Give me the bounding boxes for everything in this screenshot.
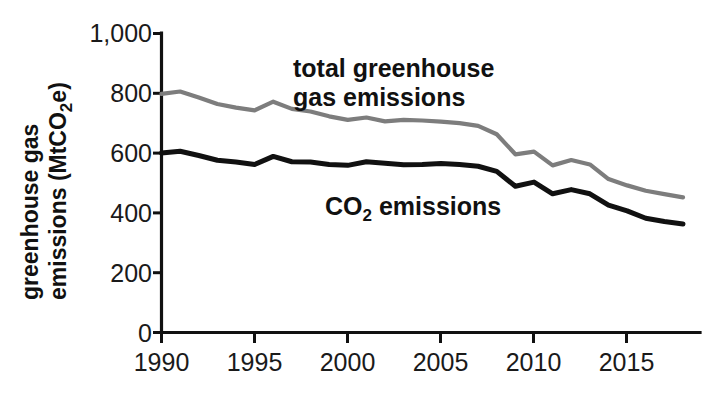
chart-canvas: greenhouse gas emissions (MtCO2e) 1,000 …	[0, 0, 724, 396]
annotation-total-greenhouse-gas: total greenhouse gas emissions	[293, 54, 495, 111]
y-axis-title-line1: greenhouse gas	[17, 124, 43, 300]
annotation-co2: CO2 emissions	[325, 192, 501, 225]
svg-text:emissions (MtCO2e): emissions (MtCO2e)	[45, 82, 76, 300]
y-axis-title-line2-post: e)	[45, 82, 71, 102]
greenhouse-gas-emissions-chart: greenhouse gas emissions (MtCO2e) 1,000 …	[0, 0, 724, 396]
x-tick-label-2015: 2015	[599, 348, 655, 376]
x-tick-label-2005: 2005	[413, 348, 469, 376]
annotation-total-line2: gas emissions	[293, 83, 465, 111]
y-tick-label-1000: 1,000	[89, 19, 152, 47]
x-tick-label-1995: 1995	[227, 348, 283, 376]
y-axis-title-subscript: 2	[57, 103, 76, 112]
y-tick-label-200: 200	[110, 259, 152, 287]
y-tick-label-600: 600	[110, 139, 152, 167]
svg-text:CO2 emissions: CO2 emissions	[325, 192, 501, 225]
y-axis-title: greenhouse gas emissions (MtCO2e)	[17, 82, 76, 300]
y-tick-labels: 1,000 800 600 400 200 0	[89, 19, 152, 347]
y-tick-label-800: 800	[110, 79, 152, 107]
annotation-co2-post: emissions	[372, 192, 501, 220]
y-tick-label-400: 400	[110, 199, 152, 227]
y-axis-title-line2-pre: emissions (MtCO	[45, 112, 71, 300]
svg-text:greenhouse gas: greenhouse gas	[17, 124, 43, 300]
annotation-co2-subscript: 2	[363, 206, 372, 225]
x-tick-label-2010: 2010	[506, 348, 562, 376]
annotation-co2-pre: CO	[325, 192, 363, 220]
x-tick-label-1990: 1990	[134, 348, 190, 376]
x-tick-label-2000: 2000	[320, 348, 376, 376]
y-tick-label-0: 0	[138, 319, 152, 347]
x-tick-labels: 1990 1995 2000 2005 2010 2015	[134, 348, 655, 376]
annotation-total-line1: total greenhouse	[293, 54, 495, 82]
